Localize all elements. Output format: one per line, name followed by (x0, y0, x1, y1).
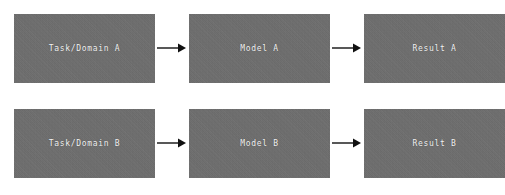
node-task-domain-a[interactable]: Task/Domain A (14, 14, 155, 83)
arrow-model-b-to-result-b (330, 137, 364, 149)
node-label-model-b: Model B (240, 139, 279, 148)
node-result-b[interactable]: Result B (364, 109, 505, 178)
node-label-task-domain-a: Task/Domain A (49, 44, 121, 53)
node-label-model-a: Model A (240, 44, 279, 53)
arrow-task-b-to-model-b (155, 137, 189, 149)
node-task-domain-b[interactable]: Task/Domain B (14, 109, 155, 178)
node-label-task-domain-b: Task/Domain B (49, 139, 121, 148)
node-model-b[interactable]: Model B (189, 109, 330, 178)
node-model-a[interactable]: Model A (189, 14, 330, 83)
node-label-result-b: Result B (412, 139, 456, 148)
right-arrow-icon (157, 138, 187, 148)
arrow-task-a-to-model-a (155, 42, 189, 54)
node-result-a[interactable]: Result A (364, 14, 505, 83)
flow-row-b: Task/Domain B Model B Result B (0, 108, 484, 178)
right-arrow-icon (332, 43, 362, 53)
right-arrow-icon (157, 43, 187, 53)
right-arrow-icon (332, 138, 362, 148)
arrow-model-a-to-result-a (330, 42, 364, 54)
flow-row-a: Task/Domain A Model A Result A (0, 13, 484, 83)
node-label-result-a: Result A (412, 44, 456, 53)
